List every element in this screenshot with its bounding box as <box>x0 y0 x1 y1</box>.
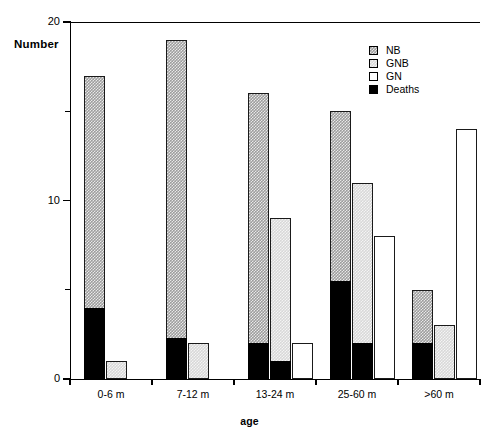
y-tick-20 <box>63 21 71 22</box>
x-tick-2 <box>233 379 234 385</box>
bar-deaths-nb-group-4 <box>412 343 433 379</box>
legend-swatch-deaths <box>369 85 378 94</box>
bar-deaths-nb-group-3 <box>330 281 351 379</box>
x-tick-5 <box>479 379 480 385</box>
x-tick-3 <box>315 379 316 385</box>
bar-gnb-group-2 <box>270 218 291 379</box>
legend-item-deaths[interactable]: Deaths <box>369 83 419 96</box>
y-tick-label-10: 10 <box>16 195 60 206</box>
y-axis-title: Number <box>14 38 59 50</box>
bar-gnb-group-1 <box>188 343 209 379</box>
legend-item-gn[interactable]: GN <box>369 70 419 83</box>
x-tick-label-1: 7-12 m <box>152 388 234 400</box>
bar-gnb-group-4 <box>434 325 455 379</box>
bar-gn-group-4 <box>456 129 477 379</box>
legend-item-gnb[interactable]: GNB <box>369 57 419 70</box>
x-tick-label-0: 0-6 m <box>70 388 152 400</box>
bar-deaths-nb-group-1 <box>166 338 187 379</box>
y-tick-10 <box>63 200 71 201</box>
legend-swatch-nb <box>369 46 378 55</box>
x-tick-4 <box>397 379 398 385</box>
legend-swatch-gn <box>369 72 378 81</box>
legend-label-nb: NB <box>386 44 401 56</box>
legend-item-nb[interactable]: NB <box>369 44 419 57</box>
y-minor-tick-5 <box>65 289 71 290</box>
bar-gnb-group-0 <box>106 361 127 379</box>
legend-label-gn: GN <box>386 70 402 82</box>
bar-deaths-gnb-group-2 <box>270 361 291 379</box>
y-minor-tick-15 <box>65 111 71 112</box>
x-axis-line <box>70 379 480 380</box>
x-tick-label-2: 13-24 m <box>234 388 316 400</box>
chart-canvas: Number 01020 0-6 m7-12 m13-24 m25-60 m>6… <box>0 0 499 437</box>
y-tick-label-0: 0 <box>16 373 60 384</box>
y-tick-label-20: 20 <box>16 16 60 27</box>
bar-deaths-gnb-group-3 <box>352 343 373 379</box>
legend-label-gnb: GNB <box>386 57 409 69</box>
x-tick-0 <box>69 379 70 385</box>
x-tick-label-4: >60 m <box>398 388 480 400</box>
x-axis-title: age <box>0 415 499 427</box>
bar-deaths-nb-group-0 <box>84 308 105 379</box>
x-tick-label-3: 25-60 m <box>316 388 398 400</box>
legend-label-deaths: Deaths <box>386 83 419 95</box>
bar-nb-group-1 <box>166 40 187 379</box>
bar-nb-group-2 <box>248 93 269 379</box>
legend-swatch-gnb <box>369 59 378 68</box>
chart-legend: NBGNBGNDeaths <box>369 44 419 96</box>
bar-gn-group-2 <box>292 343 313 379</box>
bar-deaths-nb-group-2 <box>248 343 269 379</box>
x-tick-1 <box>151 379 152 385</box>
bar-gn-group-3 <box>374 236 395 379</box>
